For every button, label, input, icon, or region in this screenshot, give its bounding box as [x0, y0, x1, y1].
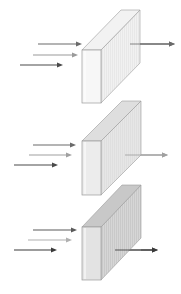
incoming-arrow-1: [33, 227, 77, 232]
slabs-group: [14, 10, 175, 280]
incoming-arrow-3: [14, 162, 58, 167]
incoming-arrow-2: [28, 237, 72, 242]
slab-3: [14, 185, 158, 280]
diagram-canvas: [0, 0, 181, 294]
outgoing-arrow-visible: [140, 41, 175, 46]
incoming-arrow-3: [20, 62, 63, 67]
outgoing-arrow-visible: [141, 247, 158, 252]
slab-2: [14, 101, 168, 195]
slab-1: [20, 10, 175, 103]
filter-slabs-diagram: [0, 0, 181, 294]
incoming-arrow-1: [38, 41, 82, 46]
incoming-arrow-3: [14, 247, 57, 252]
outgoing-arrow-visible: [141, 152, 168, 157]
incoming-arrow-2: [33, 52, 78, 57]
incoming-arrow-2: [29, 152, 72, 157]
incoming-arrow-1: [33, 142, 76, 147]
